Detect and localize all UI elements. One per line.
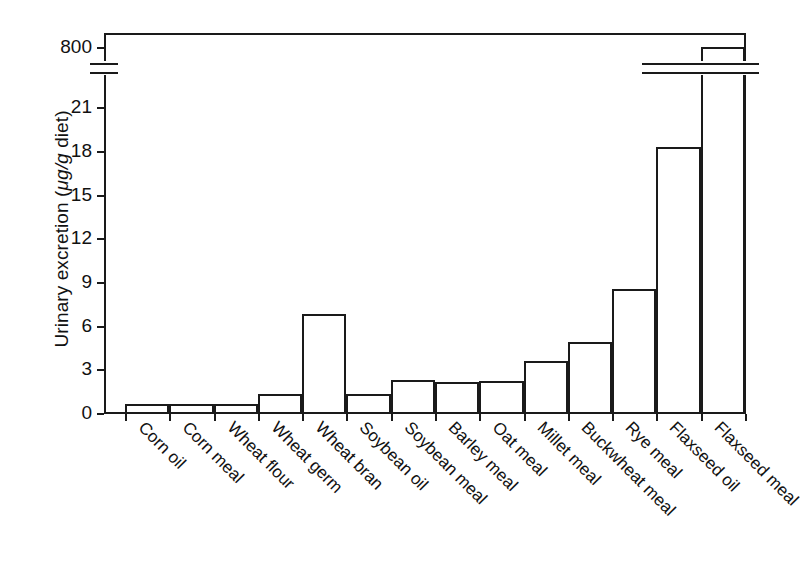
y-tick-label-800: 800 — [60, 36, 92, 58]
bar-oat-meal — [479, 381, 523, 414]
y-tick-label-6: 6 — [81, 315, 92, 337]
y-tick-9 — [97, 282, 104, 284]
bar-rye-meal — [612, 289, 656, 414]
axis-frame-top — [104, 33, 746, 35]
y-axis-title-units: μg/g — [51, 153, 72, 190]
y-tick-3 — [97, 369, 104, 371]
y-tick-0 — [97, 413, 104, 415]
y-tick-21 — [97, 107, 104, 109]
axis-break-mark-flaxseed-meal-0 — [687, 63, 759, 65]
axis-frame-left — [104, 33, 106, 414]
bar-soybean-oil — [346, 394, 390, 414]
y-tick-label-3: 3 — [81, 358, 92, 380]
bar-barley-meal — [435, 382, 479, 414]
bar-millet-meal — [524, 361, 568, 414]
bar-corn-meal — [169, 404, 213, 414]
bar-corn-oil — [125, 404, 169, 414]
y-tick-6 — [97, 326, 104, 328]
y-tick-label-18: 18 — [71, 140, 92, 162]
y-tick-label-9: 9 — [81, 271, 92, 293]
bar-soybean-meal — [391, 380, 435, 414]
y-tick-800 — [97, 47, 104, 49]
bar-buckwheat-meal — [568, 342, 612, 414]
y-tick-label-15: 15 — [71, 184, 92, 206]
y-tick-label-12: 12 — [71, 227, 92, 249]
bar-wheat-flour — [214, 404, 258, 414]
plot-area: 036912151821800 — [104, 33, 746, 414]
y-tick-label-0: 0 — [81, 402, 92, 424]
bar-flaxseed-meal — [701, 47, 745, 414]
y-tick-15 — [97, 195, 104, 197]
y-axis-title-suffix: diet) — [51, 110, 72, 153]
bar-flaxseed-oil — [656, 147, 700, 414]
axis-break-mark-flaxseed-meal-1 — [687, 72, 759, 74]
y-axis-title: Urinary excretion (μg/g diet) — [51, 29, 73, 429]
y-tick-label-21: 21 — [71, 96, 92, 118]
bar-wheat-germ — [258, 394, 302, 414]
y-tick-18 — [97, 151, 104, 153]
axis-break-mark-y-axis-1 — [90, 72, 118, 74]
x-label-corn-oil: Corn oil — [134, 418, 190, 474]
y-axis-title-prefix: Urinary excretion ( — [51, 190, 72, 347]
axis-break-mark-y-axis-0 — [90, 63, 118, 65]
bar-wheat-bran — [302, 314, 346, 414]
y-tick-12 — [97, 238, 104, 240]
x-axis-labels: Corn oilCorn mealWheat flourWheat germWh… — [104, 418, 746, 568]
